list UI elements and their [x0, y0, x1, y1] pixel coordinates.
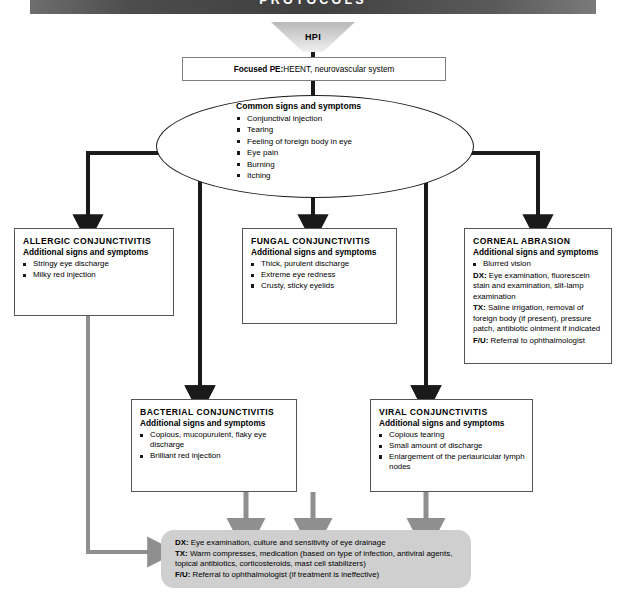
corneal-subheading: Additional signs and symptoms — [473, 247, 604, 258]
viral-title: VIRAL CONJUNCTIVITIS — [379, 407, 525, 418]
viral-subheading: Additional signs and symptoms — [379, 418, 525, 429]
fungal-conjunctivitis-box: FUNGAL CONJUNCTIVITIS Additional signs a… — [242, 228, 397, 324]
viral-conjunctivitis-box: VIRAL CONJUNCTIVITIS Additional signs an… — [370, 399, 533, 492]
fungal-subheading: Additional signs and symptoms — [251, 247, 389, 258]
outcome-tx-label: TX: — [175, 549, 188, 558]
list-item: Copious tearing — [379, 430, 525, 440]
header-title: PROTOCOLS — [30, 0, 596, 7]
common-symptoms-list: Conjunctival injection Tearing Feeling o… — [236, 113, 466, 181]
list-item: Blurred vision — [473, 259, 604, 269]
list-item: Small amount of discharge — [379, 441, 525, 451]
list-item: Extreme eye redness — [251, 270, 389, 280]
fungal-list: Thick, purulent discharge Extreme eye re… — [251, 259, 389, 291]
outcome-tx: TX: Warm compresses, medication (based o… — [175, 549, 459, 570]
allergic-list: Stringy eye discharge Milky red injectio… — [23, 259, 166, 280]
connector-ellipse-to-corneal — [455, 153, 538, 219]
outcome-box: DX: Eye examination, culture and sensiti… — [161, 530, 471, 588]
outcome-dx-label: DX: — [175, 538, 189, 547]
common-symptoms-content: Common signs and symptoms Conjunctival i… — [236, 101, 466, 181]
allergic-conjunctivitis-box: ALLERGIC CONJUNCTIVITIS Additional signs… — [14, 228, 174, 316]
outcome-dx-text: Eye examination, culture and sensitivity… — [189, 538, 386, 547]
list-item: Eye pain — [236, 147, 466, 158]
corneal-tx-label: TX: — [473, 303, 486, 312]
list-item: Thick, purulent discharge — [251, 259, 389, 269]
list-item: Stringy eye discharge — [23, 259, 166, 269]
corneal-abrasion-box: CORNEAL ABRASION Additional signs and sy… — [464, 228, 612, 364]
corneal-title: CORNEAL ABRASION — [473, 236, 604, 247]
list-item: Conjunctival injection — [236, 113, 466, 124]
list-item: Tearing — [236, 124, 466, 135]
bacterial-title: BACTERIAL CONJUNCTIVITIS — [140, 407, 289, 418]
corneal-fu-text: Referral to ophthalmologist — [488, 336, 585, 345]
hpi-label: HPI — [271, 32, 355, 42]
corneal-tx: TX: Saline irrigation, removal of foreig… — [473, 303, 604, 334]
fungal-title: FUNGAL CONJUNCTIVITIS — [251, 236, 389, 247]
focused-pe-box: Focused PE: HEENT, neurovascular system — [182, 57, 446, 81]
outcome-fu: F/U: Referral to ophthalmologist (if tre… — [175, 570, 459, 581]
corneal-tx-text: Saline irrigation, removal of foreign bo… — [473, 303, 600, 333]
corneal-list: Blurred vision — [473, 259, 604, 269]
list-item: Milky red injection — [23, 270, 166, 280]
corneal-fu-label: F/U: — [473, 336, 488, 345]
outcome-fu-text: Referral to ophthalmologist (if treatmen… — [190, 570, 379, 579]
list-item: Itching — [236, 170, 466, 181]
common-symptoms-title: Common signs and symptoms — [236, 101, 466, 111]
outcome-tx-text: Warm compresses, medication (based on ty… — [175, 549, 452, 569]
connector-ellipse-to-allergic — [88, 153, 172, 219]
outcome-dx: DX: Eye examination, culture and sensiti… — [175, 538, 459, 549]
corneal-dx: DX: Eye examination, fluorescein stain a… — [473, 271, 604, 302]
list-item: Brilliant red injection — [140, 451, 289, 461]
corneal-dx-text: Eye examination, fluorescein stain and e… — [473, 271, 590, 301]
list-item: Enlargement of the periauricular lymph n… — [379, 452, 525, 473]
allergic-title: ALLERGIC CONJUNCTIVITIS — [23, 236, 166, 247]
allergic-subheading: Additional signs and symptoms — [23, 247, 166, 258]
header-band: PROTOCOLS — [30, 0, 596, 14]
list-item: Crusty, sticky eyelids — [251, 281, 389, 291]
bacterial-subheading: Additional signs and symptoms — [140, 418, 289, 429]
flowchart-canvas: PROTOCOLS HPI Focused PE: HEENT, neurova… — [0, 0, 626, 607]
list-item: Copious, mucopurulent, flaky eye dischar… — [140, 430, 289, 451]
viral-list: Copious tearing Small amount of discharg… — [379, 430, 525, 473]
list-item: Feeling of foreign body in eye — [236, 136, 466, 147]
bacterial-conjunctivitis-box: BACTERIAL CONJUNCTIVITIS Additional sign… — [131, 399, 297, 492]
focused-pe-text: HEENT, neurovascular system — [283, 65, 394, 74]
outcome-fu-label: F/U: — [175, 570, 190, 579]
bacterial-list: Copious, mucopurulent, flaky eye dischar… — [140, 430, 289, 462]
list-item: Burning — [236, 159, 466, 170]
corneal-dx-label: DX: — [473, 271, 487, 280]
corneal-fu: F/U: Referral to ophthalmologist — [473, 336, 604, 346]
focused-pe-label: Focused PE: — [234, 65, 284, 74]
